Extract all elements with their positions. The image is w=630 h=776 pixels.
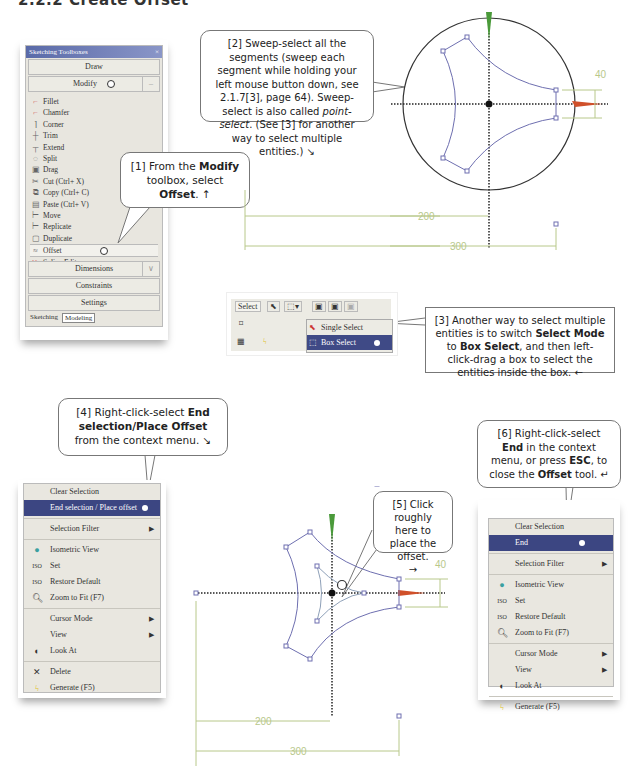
callout-step-6: [6] Right-click-select End in the contex… <box>477 420 621 488</box>
zoom-fit-icon: 🔍︎ <box>30 590 44 606</box>
look-at-icon: ◐ <box>30 643 44 659</box>
iso-restore-icon: ISO <box>495 609 509 625</box>
click-target-marker <box>338 581 347 590</box>
menu-set[interactable]: ISOSet <box>24 558 160 574</box>
select-mode-menu: ⬉Single Select ⬚Box Select <box>306 319 393 353</box>
submenu-arrow-icon: ▶ <box>149 611 154 627</box>
iso-set-icon: ISO <box>30 558 44 574</box>
svg-text:200: 200 <box>255 716 272 727</box>
callout-step-5: [5] Click roughly here to place the offs… <box>373 491 453 553</box>
submenu-arrow-icon: ▶ <box>602 662 607 678</box>
callout-marker <box>142 505 148 511</box>
single-select-icon: ⬉ <box>309 320 316 335</box>
generate-icon[interactable]: ϟ <box>263 337 267 346</box>
x-axis-arrow-icon <box>398 590 425 596</box>
menu-generate[interactable]: ϟGenerate (F5) <box>24 680 160 696</box>
callout-marker <box>579 540 585 546</box>
sketch-top-dim-left <box>240 190 440 260</box>
selection-tool-icon[interactable]: ▣ <box>312 301 326 312</box>
submenu-arrow-icon: ▶ <box>602 646 607 662</box>
submenu-arrow-icon: ▶ <box>602 556 607 572</box>
new-plane-icon[interactable]: ▦ <box>237 337 245 346</box>
callout-step-2: [2] Sweep-select all the segments (sweep… <box>200 30 374 122</box>
context-menu-screenshot-1: Clear Selection End selection / Place of… <box>18 480 166 698</box>
generate-icon: ϟ <box>495 699 509 715</box>
menu-look-at[interactable]: ◐Look At <box>24 643 160 659</box>
menu-clear-selection[interactable]: Clear Selection <box>24 484 160 500</box>
generate-icon: ϟ <box>30 680 44 696</box>
callout-step-1: [1] From the Modify toolbox, select Offs… <box>120 152 250 208</box>
menu-view[interactable]: View▶ <box>489 662 613 678</box>
menu-clear-selection[interactable]: Clear Selection <box>489 519 613 535</box>
iso-set-icon: ISO <box>495 593 509 609</box>
menu-zoom-to-fit[interactable]: 🔍︎Zoom to Fit (F7) <box>489 625 613 641</box>
origin-point <box>329 590 336 597</box>
isometric-icon: ● <box>30 542 44 558</box>
svg-text:300: 300 <box>290 746 307 757</box>
select-mode-label: Select <box>235 301 261 312</box>
callout-step-3: [3] Another way to select multiple entit… <box>425 307 615 373</box>
context-menu: Clear Selection End Selection Filter▶ ●I… <box>488 518 614 687</box>
delete-icon: ✕ <box>30 664 44 680</box>
selection-tool-icon[interactable]: ▣ <box>328 301 342 312</box>
select-arrow-icon[interactable]: ⬉ <box>267 301 280 312</box>
x-axis-arrow-icon <box>572 101 602 107</box>
origin-point <box>486 101 493 108</box>
option-box-select[interactable]: ⬚Box Select <box>307 335 392 350</box>
menu-isometric-view[interactable]: ●Isometric View <box>24 542 160 558</box>
submenu-arrow-icon: ▶ <box>149 521 154 537</box>
menu-selection-filter[interactable]: Selection Filter▶ <box>489 556 613 572</box>
look-at-icon: ◐ <box>495 678 509 694</box>
selection-tool-icon[interactable]: ▣ <box>344 301 358 312</box>
menu-zoom-to-fit[interactable]: 🔍︎Zoom to Fit (F7) <box>24 590 160 606</box>
menu-restore-default[interactable]: ISORestore Default <box>24 574 160 590</box>
callout-step-4: [4] Right-click-select End selection/Pla… <box>58 398 228 456</box>
sketch-plane-icon[interactable]: ⌑ <box>239 319 243 328</box>
select-toolbar-screenshot: Select ⬉ ⬚▾ ▣ ▣ ▣ ⌑ ▦ϟ ⬉Single Select ⬚B… <box>226 292 398 356</box>
menu-restore-default[interactable]: ISORestore Default <box>489 609 613 625</box>
menu-set[interactable]: ISOSet <box>489 593 613 609</box>
menu-look-at[interactable]: ◐Look At <box>489 678 613 694</box>
option-single-select[interactable]: ⬉Single Select <box>307 320 392 335</box>
zoom-fit-icon: 🔍︎ <box>495 625 509 641</box>
context-menu: Clear Selection End selection / Place of… <box>23 483 161 693</box>
menu-selection-filter[interactable]: Selection Filter▶ <box>24 521 160 537</box>
callout-marker <box>374 340 380 346</box>
y-axis-arrow-icon <box>486 12 492 40</box>
menu-generate[interactable]: ϟGenerate (F5) <box>489 699 613 715</box>
menu-end-selection-place-offset[interactable]: End selection / Place offset <box>24 500 160 516</box>
menu-cursor-mode[interactable]: Cursor Mode▶ <box>24 611 160 627</box>
submenu-arrow-icon: ▶ <box>149 627 154 643</box>
svg-text:40: 40 <box>595 69 607 80</box>
menu-end[interactable]: End <box>489 535 613 551</box>
dimension-lines <box>196 579 448 766</box>
menu-isometric-view[interactable]: ●Isometric View <box>489 577 613 593</box>
menu-view[interactable]: View▶ <box>24 627 160 643</box>
menu-delete[interactable]: ✕Delete <box>24 664 160 680</box>
context-menu-screenshot-2: Clear Selection End Selection Filter▶ ●I… <box>478 500 620 700</box>
isometric-icon: ● <box>495 577 509 593</box>
box-select-icon: ⬚ <box>309 335 317 350</box>
svg-text:300: 300 <box>450 241 467 252</box>
y-axis-arrow-icon <box>329 514 335 542</box>
menu-cursor-mode[interactable]: Cursor Mode▶ <box>489 646 613 662</box>
select-mode-dropdown[interactable]: ⬚▾ <box>284 301 302 312</box>
svg-text:40: 40 <box>435 559 447 570</box>
iso-restore-icon: ISO <box>30 574 44 590</box>
